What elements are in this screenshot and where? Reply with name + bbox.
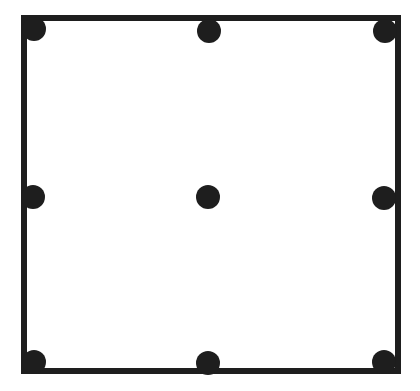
dot-top-right [373, 19, 397, 43]
square-dots-diagram [0, 0, 420, 391]
dot-bottom-middle [196, 351, 220, 375]
dot-bottom-right [372, 350, 396, 374]
dot-top-middle [197, 19, 221, 43]
dot-middle-right [372, 186, 396, 210]
dot-bottom-left [22, 350, 46, 374]
dot-middle-left [21, 185, 45, 209]
dot-center [196, 185, 220, 209]
dot-top-left [22, 17, 46, 41]
